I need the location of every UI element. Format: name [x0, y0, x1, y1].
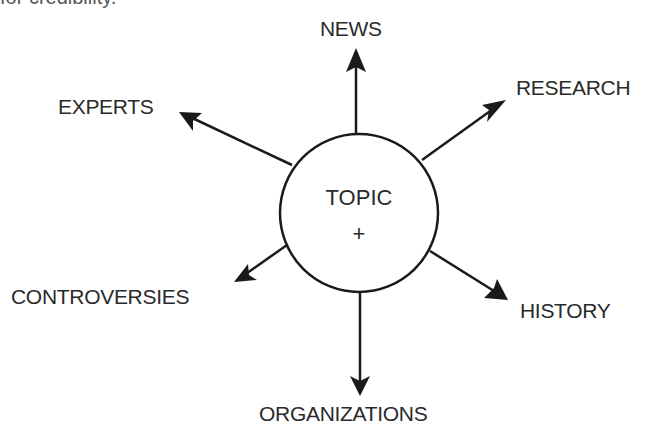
plus-icon: +: [309, 223, 409, 245]
arrow-experts: [186, 115, 292, 165]
label-research: RESEARCH: [516, 77, 630, 98]
topic-title: TOPIC: [309, 187, 409, 209]
arrow-research: [422, 104, 500, 160]
label-news: NEWS: [320, 18, 382, 39]
arrowhead-history: [484, 279, 508, 300]
label-history: HISTORY: [520, 300, 610, 321]
label-controversies: CONTROVERSIES: [11, 286, 189, 307]
topic-label: TOPIC +: [309, 187, 409, 245]
arrow-history: [430, 251, 502, 296]
label-experts: EXPERTS: [58, 96, 154, 117]
label-organizations: ORGANIZATIONS: [259, 403, 427, 424]
arrowhead-research: [482, 100, 506, 122]
arrowhead-controversies: [234, 264, 257, 282]
